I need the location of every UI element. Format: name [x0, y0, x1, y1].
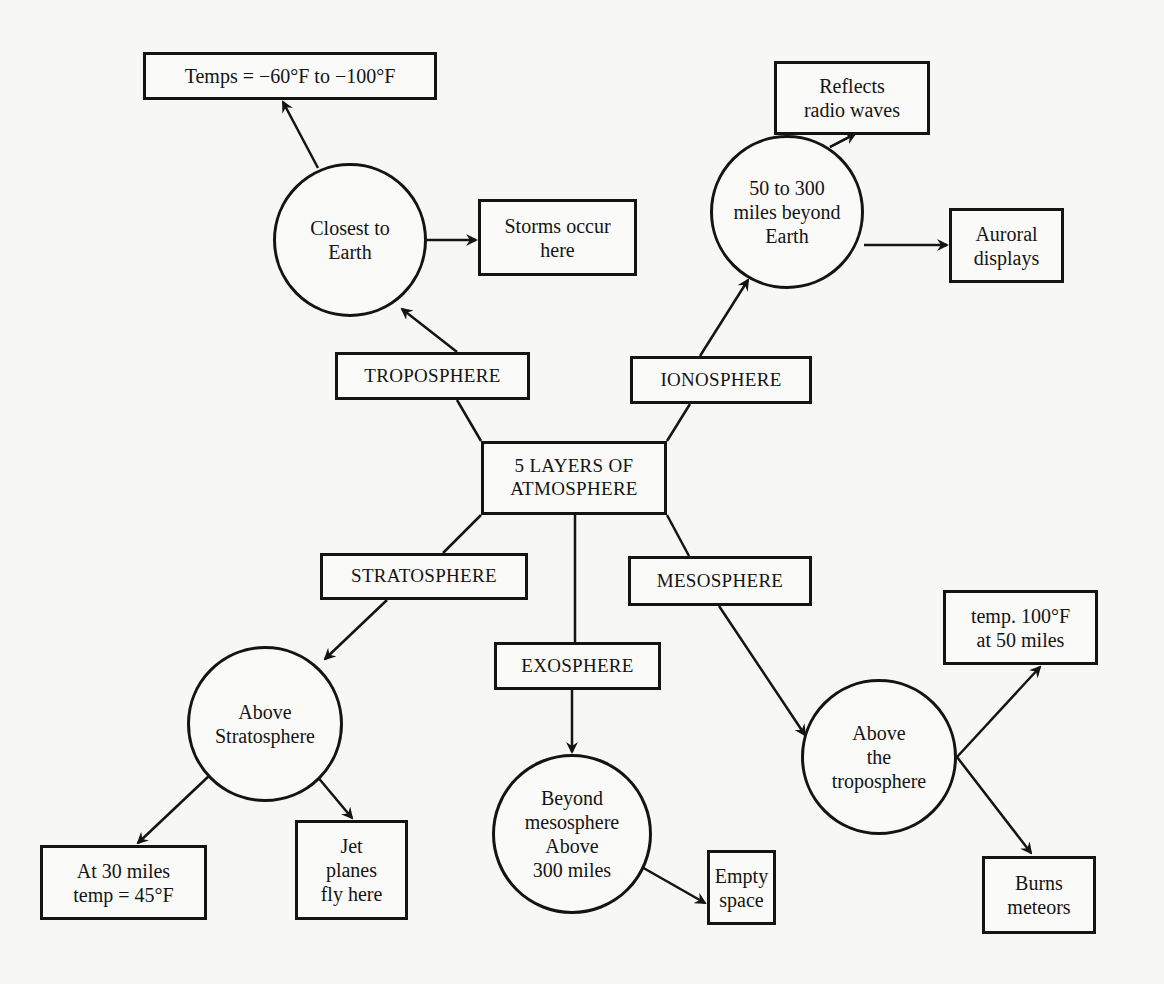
fact-label: Auroral displays: [974, 222, 1040, 270]
layer-troposphere: TROPOSPHERE: [335, 352, 530, 400]
circle-label: Above the troposphere: [832, 721, 926, 793]
fact-label: Empty space: [715, 864, 768, 912]
circle-label: 50 to 300 miles beyond Earth: [733, 176, 840, 248]
fact-mesosphere-meteors: Burns meteors: [982, 856, 1096, 934]
fact-stratosphere-jets: Jet planes fly here: [295, 820, 408, 920]
circle-troposphere: Closest to Earth: [273, 163, 427, 317]
circle-label: Closest to Earth: [310, 216, 389, 264]
layer-exosphere: EXOSPHERE: [494, 642, 661, 690]
fact-label: Burns meteors: [1007, 871, 1070, 919]
fact-mesosphere-temp: temp. 100°F at 50 miles: [943, 590, 1098, 665]
fact-label: At 30 miles temp = 45°F: [73, 859, 173, 907]
layer-ionosphere: IONOSPHERE: [630, 356, 812, 404]
fact-stratosphere-temp: At 30 miles temp = 45°F: [40, 845, 207, 920]
fact-troposphere-storms: Storms occur here: [478, 199, 637, 276]
center-label: 5 LAYERS OF ATMOSPHERE: [510, 455, 638, 501]
fact-ionosphere-radio: Reflects radio waves: [774, 61, 930, 135]
fact-label: Reflects radio waves: [804, 74, 900, 122]
circle-label: Beyond mesosphere Above 300 miles: [525, 786, 619, 882]
center-node: 5 LAYERS OF ATMOSPHERE: [481, 441, 667, 515]
fact-label: Storms occur here: [504, 214, 610, 262]
layer-label: MESOSPHERE: [657, 570, 784, 593]
circle-label: Above Stratosphere: [215, 700, 315, 748]
fact-exosphere-space: Empty space: [707, 850, 776, 925]
circle-exosphere: Beyond mesosphere Above 300 miles: [492, 754, 652, 914]
layer-label: EXOSPHERE: [521, 655, 634, 678]
layer-stratosphere: STRATOSPHERE: [320, 553, 528, 600]
layer-label: STRATOSPHERE: [351, 565, 497, 588]
fact-ionosphere-auroral: Auroral displays: [949, 208, 1064, 283]
fact-label: temp. 100°F at 50 miles: [971, 604, 1070, 652]
layer-label: TROPOSPHERE: [364, 365, 500, 388]
fact-troposphere-temps: Temps = −60°F to −100°F: [143, 52, 437, 100]
circle-stratosphere: Above Stratosphere: [187, 646, 343, 802]
fact-label: Jet planes fly here: [321, 834, 383, 906]
layer-label: IONOSPHERE: [660, 369, 781, 392]
circle-ionosphere: 50 to 300 miles beyond Earth: [710, 135, 864, 289]
circle-mesosphere: Above the troposphere: [801, 679, 957, 835]
fact-label: Temps = −60°F to −100°F: [185, 64, 396, 88]
layer-mesosphere: MESOSPHERE: [628, 556, 812, 606]
